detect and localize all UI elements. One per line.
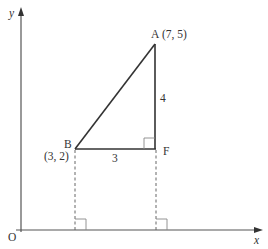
x-axis-arrow-icon [254,227,263,233]
point-f-label: F [163,145,169,157]
coordinate-diagram: A (7, 5) B (3, 2) F 3 4 y x O [0,0,268,249]
right-angle-marker-f [156,219,167,230]
point-a-label: A [151,28,160,40]
side-af-length: 4 [160,92,166,104]
point-a-coords: (7, 5) [162,28,187,41]
side-ab [75,44,155,149]
right-angle-marker-at-f [144,138,155,149]
origin-label: O [8,231,16,243]
side-bf-length: 3 [112,152,118,164]
right-angle-marker-b [75,219,86,230]
y-axis-arrow-icon [18,7,24,16]
point-b-coords: (3, 2) [44,150,69,163]
x-axis-label: x [253,234,260,246]
point-b-label: B [64,138,72,150]
y-axis-label: y [8,7,15,20]
